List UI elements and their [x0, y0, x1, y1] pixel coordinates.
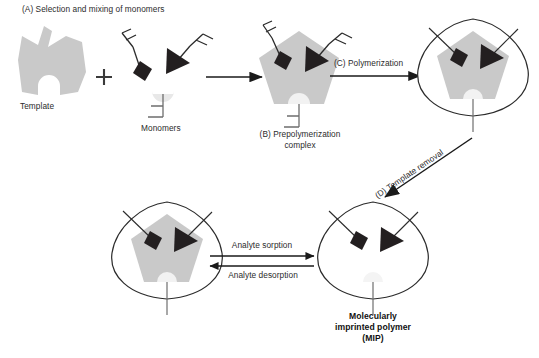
- template-label: Template: [20, 101, 54, 112]
- semicircle-monomer-free: [148, 91, 174, 117]
- step-b-label-line1: (B) Prepolymerization: [239, 129, 361, 140]
- mip-label-line2: imprinted polymer: [305, 322, 441, 334]
- polymer-with-template: [418, 19, 529, 132]
- template-molecule: [18, 26, 86, 95]
- mip-label-line3: (MIP): [313, 333, 433, 345]
- prepolymerization-complex: [259, 21, 352, 127]
- square-monomer-free: [122, 29, 152, 81]
- diagram-canvas: (A) Selection and mixing of monomers Tem…: [0, 0, 539, 358]
- triangle-monomer-free: [166, 34, 213, 74]
- monomers-label: Monomers: [141, 123, 181, 134]
- analyte-desorption-label: Analyte desorption: [207, 270, 319, 281]
- analyte-sorption-label: Analyte sorption: [212, 240, 312, 251]
- step-b-label-line2: complex: [239, 140, 361, 151]
- mip-label-line1: Molecularly: [313, 311, 433, 323]
- diagram-vectors: [0, 0, 539, 358]
- plus-sign-mark: [96, 69, 112, 85]
- step-c-label: (C) Polymerization: [334, 58, 403, 69]
- mip-with-analyte: [112, 202, 223, 315]
- molecularly-imprinted-polymer: [318, 202, 429, 315]
- step-a-label: (A) Selection and mixing of monomers: [22, 4, 164, 15]
